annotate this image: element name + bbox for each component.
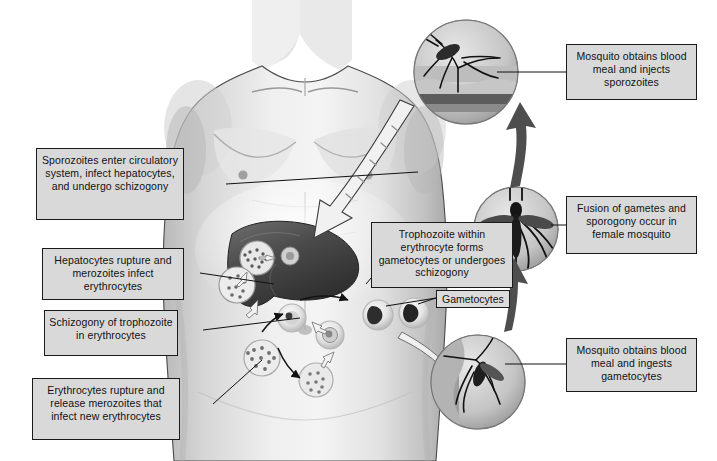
inset-mosquito-injects xyxy=(414,20,518,124)
callout-fusion-gametes: Fusion of gametes and sporogony occur in… xyxy=(566,196,697,254)
callout-sporozoites-enter: Sporozoites enter circulatory system, in… xyxy=(36,148,184,220)
callout-mosquito-injects: Mosquito obtains blood meal and injects … xyxy=(566,44,697,100)
malaria-lifecycle-diagram: Mosquito obtains blood meal and injects … xyxy=(0,0,717,461)
callout-schizogony-trophozoite: Schizogony of trophozoite in erythrocyte… xyxy=(44,310,178,356)
callout-mosquito-ingests: Mosquito obtains blood meal and ingests … xyxy=(566,338,697,392)
callout-hepatocytes-rupture: Hepatocytes rupture and merozoites infec… xyxy=(42,248,184,300)
callout-erythrocytes-rupture: Erythrocytes rupture and release merozoi… xyxy=(32,378,180,440)
label-gametocytes: Gametocytes xyxy=(436,290,510,308)
callout-trophozoite-within: Trophozoite within erythrocyte forms gam… xyxy=(371,222,513,288)
